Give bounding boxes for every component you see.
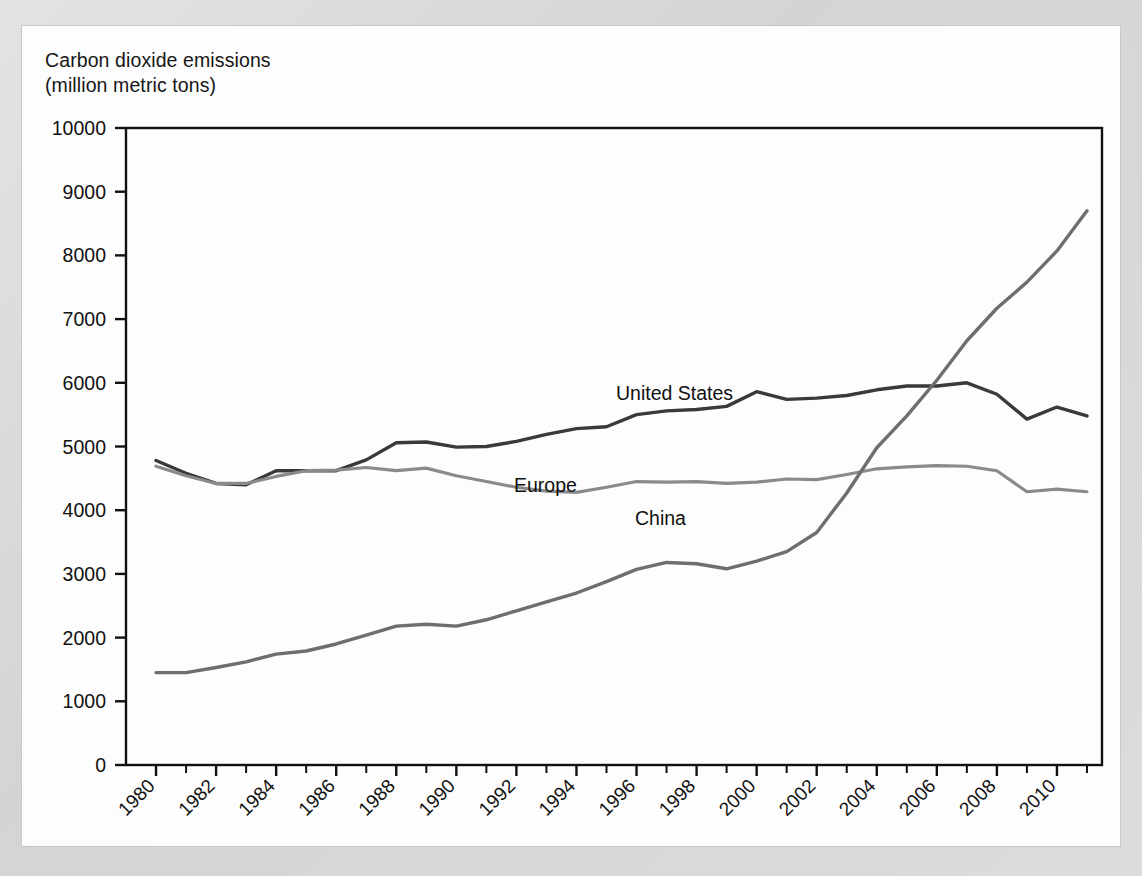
series-label-united-states: United States <box>616 382 733 405</box>
x-tick-label: 1992 <box>474 775 519 820</box>
y-tick-label: 7000 <box>63 308 107 330</box>
x-tick-label: 1988 <box>354 775 399 820</box>
x-tick-label: 1982 <box>174 775 219 820</box>
x-axis: 1980198219841986198819901992199419961998… <box>114 765 1087 820</box>
x-tick-label: 1990 <box>414 775 459 820</box>
series-label-china: China <box>635 507 686 530</box>
x-tick-label: 2002 <box>775 775 820 820</box>
x-tick-label: 2000 <box>715 775 760 820</box>
x-tick-label: 2008 <box>955 775 1000 820</box>
x-tick-label: 2004 <box>835 775 880 820</box>
x-tick-label: 2010 <box>1015 775 1060 820</box>
line-chart: 0100020003000400050006000700080009000100… <box>22 26 1120 846</box>
x-tick-label: 1986 <box>294 775 339 820</box>
y-tick-label: 4000 <box>63 499 107 521</box>
x-tick-label: 1996 <box>595 775 640 820</box>
series-line-china <box>156 211 1087 673</box>
x-tick-label: 1994 <box>535 775 580 820</box>
y-tick-label: 5000 <box>63 436 107 458</box>
y-tick-label: 6000 <box>63 372 107 394</box>
y-tick-label: 3000 <box>63 563 107 585</box>
y-tick-label: 1000 <box>63 690 107 712</box>
y-tick-label: 2000 <box>63 627 107 649</box>
y-tick-label: 0 <box>95 754 106 776</box>
series-lines <box>156 211 1087 673</box>
x-tick-label: 1980 <box>114 775 159 820</box>
y-tick-label: 10000 <box>52 117 106 139</box>
y-axis: 0100020003000400050006000700080009000100… <box>52 117 126 776</box>
plot-frame <box>126 128 1102 765</box>
figure-root: Carbon dioxide emissions(million metric … <box>0 0 1142 876</box>
x-tick-label: 1998 <box>655 775 700 820</box>
x-tick-label: 1984 <box>234 775 279 820</box>
series-label-europe: Europe <box>514 474 577 497</box>
chart-panel: Carbon dioxide emissions(million metric … <box>22 26 1120 846</box>
y-tick-label: 9000 <box>63 181 107 203</box>
x-tick-label: 2006 <box>895 775 940 820</box>
y-tick-label: 8000 <box>63 244 107 266</box>
